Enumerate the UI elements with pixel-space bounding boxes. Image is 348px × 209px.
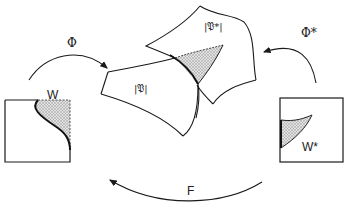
diagram-canvas: Φ Φ* F W W* |𝔓| |𝔓*| <box>0 0 348 209</box>
region-p <box>101 58 198 136</box>
square-w <box>5 100 70 162</box>
f-label: F <box>187 185 194 197</box>
phi-star-arrow <box>264 48 316 83</box>
phi-arrow <box>29 55 107 80</box>
phi-label: Φ <box>67 37 77 49</box>
w-star-label: W* <box>302 141 318 153</box>
pattern-label: |𝔓| <box>134 84 148 94</box>
w-label: W <box>47 89 58 101</box>
phi-star-label: Φ* <box>301 27 317 39</box>
diagram-svg <box>0 0 348 209</box>
region-p-star <box>146 6 256 118</box>
pattern-star-label: |𝔓*| <box>204 22 223 32</box>
f-arrow <box>110 180 262 201</box>
